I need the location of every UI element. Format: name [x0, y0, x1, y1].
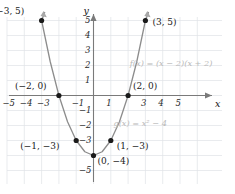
y-tick-5: 5 — [85, 16, 90, 25]
point-label-p-neg2-0: (−2, 0) — [15, 82, 47, 91]
x-tick-neg3: −3 — [37, 99, 50, 108]
point-label-p-neg3-5: (−3, 5) — [0, 7, 24, 16]
y-tick-neg5: −5 — [79, 166, 92, 175]
point-label-p-3-5: (3, 5) — [152, 18, 176, 27]
y-tick-2: 2 — [85, 61, 90, 70]
point-label-p-0-neg4: (0, −4) — [98, 157, 130, 166]
data-point-p-neg2-0 — [56, 93, 61, 98]
point-label-p-2-0: (2, 0) — [133, 82, 157, 91]
x-axis-name: x — [215, 99, 220, 109]
x-tick-1: 1 — [106, 99, 111, 108]
annotation-fn-g: g(x) = x² − 4 — [113, 119, 167, 127]
curve-arrow-left — [41, 11, 47, 17]
data-point-p-2-0 — [126, 93, 131, 98]
x-tick-neg4: −4 — [20, 99, 33, 108]
x-tick-neg5: −5 — [3, 99, 16, 108]
y-tick-neg2: −2 — [79, 121, 92, 130]
data-point-p-3-5 — [143, 18, 148, 23]
data-point-p-0-neg4 — [91, 153, 96, 158]
x-axis-arrowhead — [205, 92, 212, 98]
y-tick-neg3: −3 — [79, 136, 92, 145]
data-point-p-1-neg3 — [108, 138, 113, 143]
x-tick-3: 3 — [141, 99, 146, 108]
annotation-fn-f: f(x) = (x − 2)(x + 2) — [130, 59, 213, 67]
y-tick-1: 1 — [85, 76, 90, 85]
point-label-p-neg1-neg3: (−1, −3) — [20, 142, 59, 151]
y-tick-4: 4 — [85, 31, 90, 40]
y-axis-name: y — [84, 6, 89, 16]
graph-figure: −5−4−3−1134554321−1−2−3−5yx(−3, 5)(3, 5)… — [0, 0, 235, 194]
data-point-p-neg3-5 — [39, 18, 44, 23]
y-tick-3: 3 — [85, 46, 90, 55]
point-label-p-1-neg3: (1, −3) — [117, 142, 149, 151]
y-axis-arrowhead — [90, 14, 96, 21]
y-tick-neg1: −1 — [79, 106, 92, 115]
curve-arrow-right — [144, 11, 150, 17]
x-tick-5: 5 — [176, 99, 181, 108]
x-tick-4: 4 — [158, 99, 163, 108]
